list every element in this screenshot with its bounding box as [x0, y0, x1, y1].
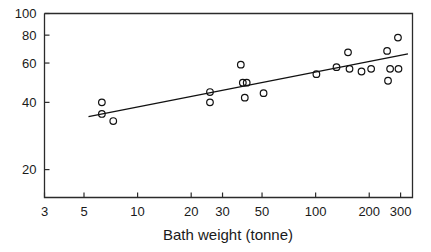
data-point — [207, 99, 214, 106]
y-tick-label: 60 — [22, 56, 36, 71]
data-point — [358, 68, 365, 75]
x-tick-label: 5 — [80, 204, 87, 219]
data-point — [385, 77, 392, 84]
data-point — [368, 66, 375, 73]
x-tick-label: 200 — [358, 204, 380, 219]
data-point — [238, 61, 245, 68]
data-point — [395, 66, 402, 73]
data-point — [345, 49, 352, 56]
x-axis-tick-labels: 3510203050100200300 — [41, 204, 412, 219]
x-tick-label: 10 — [130, 204, 144, 219]
scatter-plot: 20406080100 3510203050100200300 Bath wei… — [0, 0, 431, 252]
data-point — [241, 94, 248, 101]
x-axis-ticks — [45, 193, 401, 198]
data-points — [99, 34, 402, 124]
data-point — [260, 90, 267, 97]
chart-figure: 20406080100 3510203050100200300 Bath wei… — [0, 0, 431, 252]
x-tick-label: 3 — [41, 204, 48, 219]
data-point — [110, 118, 117, 125]
x-tick-label: 30 — [215, 204, 229, 219]
data-point — [384, 48, 391, 55]
y-axis-tick-labels: 20406080100 — [15, 6, 37, 177]
data-point — [346, 66, 353, 73]
y-tick-label: 40 — [22, 95, 36, 110]
x-tick-label: 50 — [255, 204, 269, 219]
x-axis-title: Bath weight (tonne) — [163, 226, 293, 243]
data-point — [387, 66, 394, 73]
y-tick-label: 80 — [22, 28, 36, 43]
y-tick-label: 20 — [22, 162, 36, 177]
x-tick-label: 100 — [305, 204, 327, 219]
y-tick-label: 100 — [15, 6, 37, 21]
y-axis-ticks — [45, 14, 50, 170]
data-point — [395, 34, 402, 41]
x-tick-label: 20 — [184, 204, 198, 219]
data-point — [99, 99, 106, 106]
x-tick-label: 300 — [390, 204, 412, 219]
